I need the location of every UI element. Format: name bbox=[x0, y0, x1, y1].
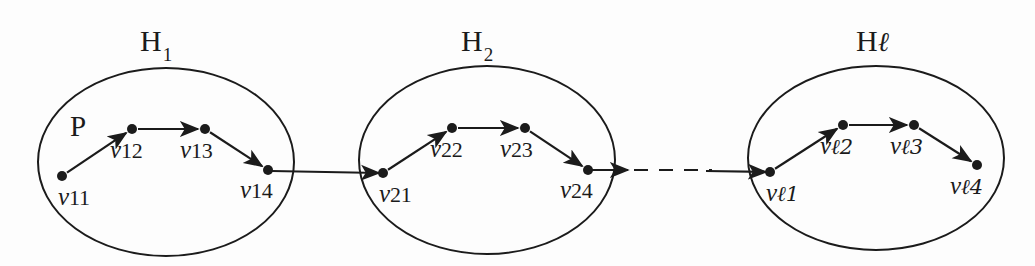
vertex-label-symbol: v bbox=[110, 136, 121, 163]
vertex-label-v22: v22 bbox=[430, 136, 463, 161]
vertex-label-symbol: v bbox=[890, 132, 901, 159]
vertex-label-symbol: v bbox=[500, 135, 511, 162]
vertex-dot-v12 bbox=[127, 124, 137, 134]
cluster-title-subscript: 2 bbox=[484, 44, 494, 65]
vertex-label-symbol: v bbox=[58, 183, 69, 210]
vertex-label-index: ℓ2 bbox=[831, 135, 853, 159]
path-edge-v23-to-v24 bbox=[530, 131, 582, 166]
vertex-label-index: ℓ4 bbox=[961, 175, 983, 199]
vertex-dot-v14 bbox=[263, 165, 273, 175]
vertex-dot-v13 bbox=[200, 124, 210, 134]
vertex-label-vl1: vℓ1 bbox=[766, 180, 799, 205]
connector-h1-h2 bbox=[272, 171, 379, 173]
vertex-label-symbol: v bbox=[766, 179, 777, 206]
vertex-label-v23: v23 bbox=[500, 136, 533, 161]
cluster-title-H1: H1 bbox=[140, 26, 171, 61]
vertex-label-index: 22 bbox=[441, 137, 462, 162]
vertex-label-vl4: vℓ4 bbox=[950, 173, 983, 198]
vertex-dot-vl3 bbox=[909, 120, 919, 130]
vertex-dot-vl2 bbox=[838, 120, 848, 130]
vertex-label-v11: v11 bbox=[58, 184, 90, 209]
vertex-dot-v22 bbox=[447, 123, 457, 133]
vertex-dot-vl4 bbox=[972, 160, 982, 170]
vertex-label-index: 13 bbox=[191, 138, 212, 163]
vertex-label-index: 14 bbox=[251, 178, 272, 203]
vertex-dot-v21 bbox=[378, 168, 388, 178]
vertex-label-index: 12 bbox=[121, 138, 142, 163]
cluster-title-letter: H bbox=[140, 24, 162, 57]
cluster-title-subscript: ℓ bbox=[878, 26, 889, 57]
vertex-label-index: 11 bbox=[69, 185, 90, 210]
vertex-dot-v11 bbox=[57, 171, 67, 181]
path-edge-v13-to-v14 bbox=[210, 132, 262, 166]
cluster-title-Hl: Hℓ bbox=[856, 26, 888, 56]
vertex-label-vl3: vℓ3 bbox=[890, 133, 923, 158]
path-edge-vl3-to-vl4 bbox=[919, 128, 971, 161]
cluster-title-subscript: 1 bbox=[163, 44, 173, 65]
vertex-label-index: 23 bbox=[511, 137, 532, 162]
vertex-label-symbol: v bbox=[560, 176, 571, 203]
cluster-title-letter: H bbox=[461, 24, 483, 57]
vertex-label-index: ℓ1 bbox=[777, 182, 799, 206]
vertex-dot-v24 bbox=[583, 165, 593, 175]
vertex-dot-v23 bbox=[520, 123, 530, 133]
vertex-label-symbol: v bbox=[379, 180, 390, 207]
path-label-P: P bbox=[70, 112, 86, 141]
vertex-label-symbol: v bbox=[430, 135, 441, 162]
figure-canvas: P H1v11v12v13v14H2v21v22v23v24Hℓvℓ1vℓ2vℓ… bbox=[0, 0, 1035, 266]
vertex-label-vl2: vℓ2 bbox=[820, 133, 853, 158]
cluster-title-H2: H2 bbox=[461, 26, 492, 61]
vertex-label-index: ℓ3 bbox=[901, 135, 923, 159]
vertex-label-symbol: v bbox=[180, 136, 191, 163]
cluster-title-letter: H bbox=[856, 24, 878, 57]
cluster-connectors-group bbox=[272, 170, 766, 173]
connector-dash-to-hl bbox=[706, 171, 766, 172]
vertex-label-v21: v21 bbox=[379, 181, 412, 206]
vertex-label-index: 24 bbox=[571, 178, 592, 203]
vertex-label-v14: v14 bbox=[240, 177, 273, 202]
vertex-label-symbol: v bbox=[950, 172, 961, 199]
vertex-label-symbol: v bbox=[820, 132, 831, 159]
vertex-label-v12: v12 bbox=[110, 137, 143, 162]
vertex-label-index: 21 bbox=[390, 182, 411, 207]
cluster-ellipse-H2 bbox=[359, 66, 615, 254]
vertex-label-symbol: v bbox=[240, 176, 251, 203]
vertex-dot-vl1 bbox=[765, 167, 775, 177]
vertex-label-v24: v24 bbox=[560, 177, 593, 202]
vertex-label-v13: v13 bbox=[180, 137, 213, 162]
